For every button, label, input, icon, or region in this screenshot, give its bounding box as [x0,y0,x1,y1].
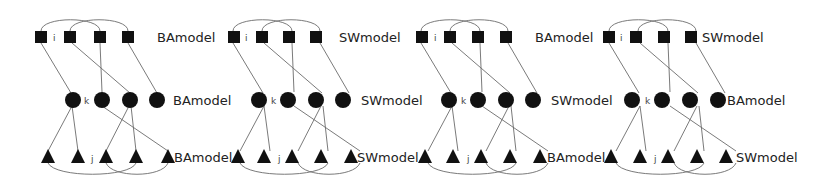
triangle-node [161,149,175,163]
circle-node [149,92,165,108]
circle-node [654,92,670,108]
circle-layer: k SWmodel [251,92,423,108]
index-label-k: k [461,96,467,106]
square-node [310,31,322,43]
index-label-k: k [84,96,90,106]
square-node [603,31,615,43]
layer-label: BAmodel [535,30,593,45]
triangle-layer: j SWmodel [604,149,798,165]
square-node [685,31,697,43]
triangle-layer: j SWmodel [231,149,419,165]
circle-node [94,92,110,108]
triangle-node [71,149,85,163]
index-label-j: j [90,154,94,164]
layer-label: BAmodel [173,93,231,108]
circle-node [308,92,324,108]
multilayer-network-figure: i BAmodel k BAmodel j BAmodel [0,0,830,181]
triangle-node [41,149,55,163]
triangle-layer: j BAmodel [418,149,605,165]
triangle-node [661,149,675,163]
index-label-k: k [271,96,277,106]
index-label-i: i [53,33,56,43]
circle-node [335,92,351,108]
square-node [228,31,240,43]
index-label-j: j [466,154,470,164]
index-label-k: k [645,96,651,106]
circle-node [498,92,514,108]
square-node [94,31,106,43]
triangle-node [344,149,358,163]
square-layer: i SWmodel [228,30,401,45]
layer-label: SWmodel [702,30,764,45]
triangle-node [129,149,143,163]
panel-2: i SWmodel k SWmodel j SWmodel [228,20,423,175]
triangle-node [690,149,704,163]
triangle-node [446,149,460,163]
square-node [630,31,642,43]
layer-label: SWmodel [361,93,423,108]
circle-node [280,92,296,108]
square-node [35,31,47,43]
panel-1: i BAmodel k BAmodel j BAmodel [35,20,232,175]
layer-label: SWmodel [357,150,419,165]
layer-label: SWmodel [551,93,613,108]
triangle-layer: j BAmodel [41,149,232,165]
triangle-node [533,149,547,163]
triangle-node [418,149,432,163]
circle-node [251,92,267,108]
index-label-i: i [620,33,623,43]
square-node [256,31,268,43]
square-layer: i BAmodel [35,30,215,45]
panel-4: i SWmodel k BAmodel j SWmodel [603,20,798,175]
index-label-j: j [653,154,657,164]
circle-node [65,92,81,108]
panel-3: i BAmodel k SWmodel j BAmodel [416,20,613,175]
circle-node [525,92,541,108]
triangle-node [604,149,618,163]
circle-node [710,92,726,108]
layer-label: BAmodel [547,150,605,165]
circle-layer: k BAmodel [624,92,785,108]
triangle-node [231,149,245,163]
square-layer: i BAmodel [416,30,593,45]
square-node [283,31,295,43]
index-label-i: i [245,33,248,43]
layer-label: SWmodel [339,30,401,45]
square-node [416,31,428,43]
index-label-j: j [277,154,281,164]
square-node [658,31,670,43]
circle-node [122,92,138,108]
triangle-node [285,149,299,163]
triangle-node [474,149,488,163]
triangle-node [633,149,647,163]
layer-label: BAmodel [157,30,215,45]
layer-label: BAmodel [727,93,785,108]
circle-node [682,92,698,108]
circle-node [470,92,486,108]
square-node [122,31,134,43]
index-label-i: i [434,33,437,43]
square-node [500,31,512,43]
circle-node [441,92,457,108]
square-node [472,31,484,43]
square-node [444,31,456,43]
triangle-node [99,149,113,163]
triangle-node [503,149,517,163]
circle-layer: k BAmodel [65,92,231,108]
triangle-node [719,149,733,163]
square-layer: i SWmodel [603,30,764,45]
triangle-node [314,149,328,163]
layer-label: BAmodel [174,150,232,165]
circle-node [624,92,640,108]
circle-layer: k SWmodel [441,92,613,108]
triangle-node [257,149,271,163]
layer-label: SWmodel [736,150,798,165]
square-node [64,31,76,43]
